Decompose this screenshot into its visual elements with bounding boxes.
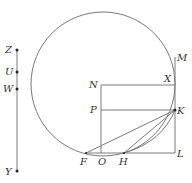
label-M: M xyxy=(176,52,188,63)
point-Z xyxy=(16,49,19,52)
label-L: L xyxy=(176,148,184,159)
point-F xyxy=(85,152,87,154)
segment-H-K xyxy=(124,110,175,153)
label-P: P xyxy=(89,104,97,115)
main-circle xyxy=(31,12,175,156)
geometric-diagram: Z U W Y M N X P K F O H L xyxy=(0,0,192,183)
label-K: K xyxy=(176,105,185,116)
label-H: H xyxy=(118,156,128,167)
label-O: O xyxy=(98,156,106,167)
label-F: F xyxy=(79,156,88,167)
point-Y xyxy=(16,170,19,173)
point-U xyxy=(16,71,19,74)
label-Y: Y xyxy=(5,166,13,177)
label-X: X xyxy=(163,73,172,84)
point-W xyxy=(16,88,19,91)
label-U: U xyxy=(5,66,14,77)
label-W: W xyxy=(3,83,14,94)
point-H xyxy=(123,152,125,154)
label-N: N xyxy=(88,79,99,90)
label-Z: Z xyxy=(4,44,13,55)
